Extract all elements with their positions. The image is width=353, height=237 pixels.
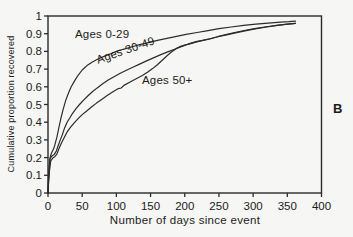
panel-label-b: B xyxy=(333,101,342,116)
y-tick-label: 0.4 xyxy=(26,116,43,128)
y-tick-label: 0.9 xyxy=(26,28,42,40)
y-tick-label: 0.2 xyxy=(26,152,42,164)
curve-ages-30-49 xyxy=(48,23,296,193)
figure-panel: 05010015020025030035040000.10.20.30.40.5… xyxy=(0,0,353,237)
y-axis-title: Cumulative proportion recovered xyxy=(6,29,16,179)
x-tick-label: 350 xyxy=(278,200,297,212)
recovery-cdf-chart: 05010015020025030035040000.10.20.30.40.5… xyxy=(0,0,353,237)
y-tick-label: 0.8 xyxy=(26,45,42,57)
y-tick-label: 0.7 xyxy=(26,63,42,75)
x-tick-label: 0 xyxy=(45,200,51,212)
y-tick-label: 0.6 xyxy=(26,81,42,93)
y-tick-label: 1 xyxy=(36,10,42,22)
x-tick-label: 250 xyxy=(209,200,228,212)
x-tick-label: 200 xyxy=(175,200,194,212)
curve-label-ages-50-plus: Ages 50+ xyxy=(142,74,193,86)
y-tick-label: 0 xyxy=(36,187,42,199)
x-tick-label: 400 xyxy=(312,200,331,212)
curve-ages-0-29 xyxy=(48,21,296,193)
y-tick-label: 0.3 xyxy=(26,134,42,146)
plot-frame xyxy=(48,16,322,193)
x-axis-title: Number of days since event xyxy=(48,214,322,226)
x-tick-label: 100 xyxy=(107,200,126,212)
curve-ages-50- xyxy=(48,23,296,193)
x-tick-label: 150 xyxy=(141,200,160,212)
x-tick-label: 300 xyxy=(244,200,263,212)
x-tick-label: 50 xyxy=(76,200,89,212)
y-tick-label: 0.5 xyxy=(26,99,42,111)
y-tick-label: 0.1 xyxy=(26,169,42,181)
curve-label-ages-0-29: Ages 0-29 xyxy=(75,28,129,40)
